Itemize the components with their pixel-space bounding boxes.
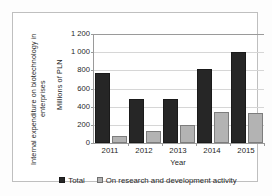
y-axis-title: Internal expenditure on biotechnology in…: [29, 29, 49, 169]
bar-total-2012: [129, 99, 145, 144]
x-axis-tick-mark: [264, 143, 265, 146]
bar-total-2011: [95, 73, 111, 143]
y-axis-tick-label: 0: [86, 139, 90, 147]
bar-total-2015: [231, 52, 247, 143]
y-axis-tick-label: 600: [77, 85, 90, 93]
y-axis-tick-mark: [91, 125, 94, 126]
bar-rnd-2011: [112, 136, 128, 143]
bar-rnd-2013: [180, 125, 196, 143]
x-axis-tick-label-2012: 2012: [135, 146, 152, 155]
bar-rnd-2015: [248, 113, 264, 143]
bar-rnd-2014: [214, 112, 230, 143]
y-axis-tick-labels: 02004006008001 0001 200: [63, 27, 92, 151]
y-axis-tick-label: 1 000: [71, 48, 90, 56]
legend-swatch-rnd-icon: [97, 177, 103, 183]
bar-total-2013: [163, 99, 179, 143]
y-axis-tick-mark: [91, 52, 94, 53]
legend-item-total: Total: [59, 176, 84, 185]
y-axis-tick-mark: [91, 89, 94, 90]
x-axis-tick-label-2013: 2013: [169, 146, 186, 155]
y-axis-tick-mark: [91, 34, 94, 35]
legend-item-rnd: On research and development activity: [97, 176, 237, 185]
y-axis-tick-label: 400: [77, 103, 90, 111]
y-axis-tick-label: 1 200: [71, 30, 90, 38]
bar-rnd-2012: [146, 131, 162, 143]
legend-swatch-total-icon: [59, 177, 65, 183]
gridline: [94, 34, 264, 35]
y-axis-tick-label: 800: [77, 66, 90, 74]
x-axis-tick-label-2015: 2015: [237, 146, 254, 155]
chart-legend: Total On research and development activi…: [29, 173, 267, 187]
legend-label-total: Total: [68, 176, 84, 185]
y-axis-title-text: Internal expenditure on biotechnology in…: [30, 29, 47, 169]
plot-area: [93, 34, 264, 144]
x-axis-tick-labels: 20112012201320142015: [93, 146, 263, 158]
chart-frame: Internal expenditure on biotechnology in…: [12, 12, 258, 182]
x-axis-tick-label-2014: 2014: [203, 146, 220, 155]
x-axis-tick-label-2011: 2011: [102, 146, 119, 155]
y-axis-tick-label: 200: [77, 121, 90, 129]
x-axis-title: Year: [93, 158, 263, 167]
y-axis-tick-mark: [91, 70, 94, 71]
legend-label-rnd: On research and development activity: [106, 176, 237, 185]
y-axis-tick-mark: [91, 107, 94, 108]
y-axis-tick-mark: [91, 143, 94, 144]
bar-total-2014: [197, 69, 213, 143]
chart-figure: Internal expenditure on biotechnology in…: [0, 0, 272, 196]
